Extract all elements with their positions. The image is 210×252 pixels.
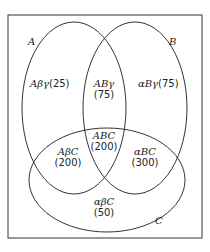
region-count: (75) bbox=[89, 89, 119, 100]
region-label: αBγ bbox=[138, 78, 158, 89]
region-ac-only: AβC (200) bbox=[51, 146, 85, 168]
region-abc: ABC (200) bbox=[88, 130, 120, 152]
region-label: αβC bbox=[88, 196, 120, 207]
set-b-ellipse bbox=[83, 22, 187, 194]
region-count: (200) bbox=[51, 157, 85, 168]
region-count: (25) bbox=[49, 78, 70, 89]
region-b-only: αBγ(75) bbox=[138, 78, 179, 89]
region-label: ABC bbox=[88, 130, 120, 141]
region-a-only: Aβγ(25) bbox=[30, 78, 70, 89]
region-count: (200) bbox=[88, 141, 120, 152]
region-bc-only: αBC (300) bbox=[127, 146, 163, 168]
region-count: (50) bbox=[88, 207, 120, 218]
set-a-ellipse bbox=[22, 22, 126, 194]
set-b-label: B bbox=[169, 36, 176, 47]
set-c-label: C bbox=[155, 215, 163, 226]
region-label: AβC bbox=[51, 146, 85, 157]
region-label: Aβγ bbox=[30, 78, 49, 89]
region-label: αBC bbox=[127, 146, 163, 157]
region-ab-only: ABγ (75) bbox=[89, 78, 119, 100]
region-c-only: αβC (50) bbox=[88, 196, 120, 218]
region-label: ABγ bbox=[89, 78, 119, 89]
set-a-label: A bbox=[28, 36, 35, 47]
region-count: (300) bbox=[127, 157, 163, 168]
region-count: (75) bbox=[158, 78, 179, 89]
